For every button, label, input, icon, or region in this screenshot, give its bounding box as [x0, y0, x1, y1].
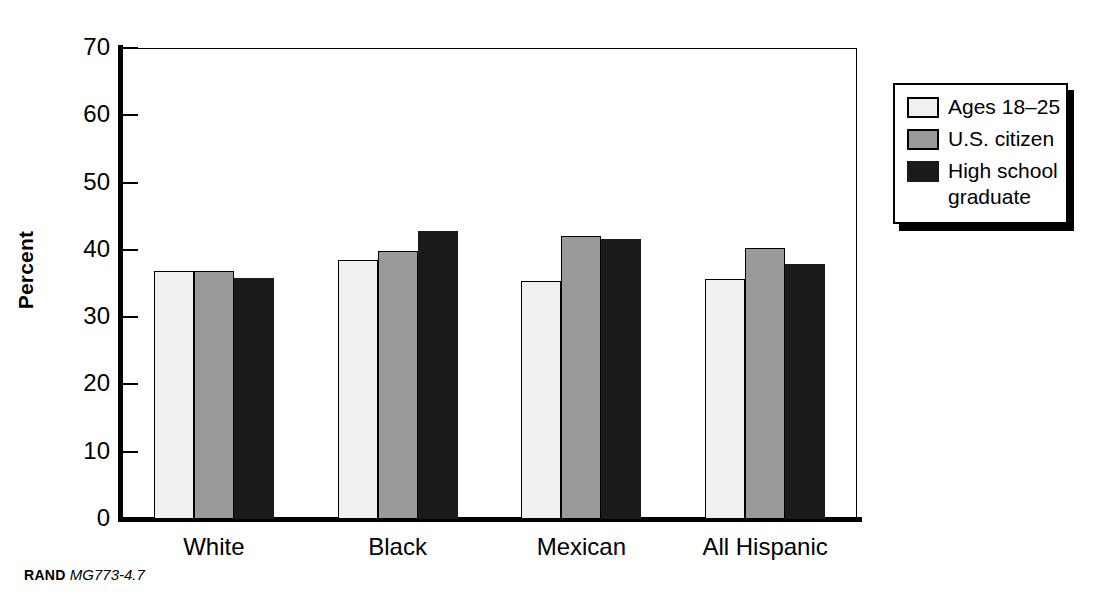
bar [338, 260, 378, 519]
bar [561, 236, 601, 519]
y-axis-tick-label: 0 [50, 506, 110, 530]
y-axis-tick-label: 20 [50, 371, 110, 395]
bar [745, 248, 785, 519]
y-axis-tick-label: 50 [50, 170, 110, 194]
legend-item-label: Ages 18–25 [948, 94, 1060, 120]
bar [378, 251, 418, 519]
legend-swatch-icon [907, 97, 939, 118]
y-axis-tick-label: 10 [50, 439, 110, 463]
legend-item-label: U.S. citizen [948, 126, 1054, 152]
legend-item: U.S. citizen [907, 126, 1066, 152]
y-axis-tick-label: 40 [50, 237, 110, 261]
legend-item-label: High school graduate [948, 158, 1058, 210]
bar [154, 271, 194, 519]
bar [521, 281, 561, 519]
bar [601, 239, 641, 519]
legend-swatch-icon [907, 161, 939, 182]
bar [234, 278, 274, 519]
y-axis-tick-label: 30 [50, 304, 110, 328]
legend-item: Ages 18–25 [907, 94, 1066, 120]
bars-layer [122, 48, 857, 519]
y-axis-title: Percent [14, 200, 38, 340]
bar [785, 264, 825, 519]
figure-container: Percent 010203040506070 WhiteBlackMexica… [0, 0, 1114, 610]
y-axis-tick-label: 70 [50, 35, 110, 59]
x-axis-label: All Hispanic [655, 533, 875, 561]
figure-footer: RAND MG773-4.7 [24, 566, 145, 584]
bar [194, 271, 234, 519]
legend-item: High school graduate [907, 158, 1066, 210]
figure-id-label: MG773-4.7 [70, 566, 145, 583]
legend: Ages 18–25U.S. citizenHigh school gradua… [893, 83, 1068, 224]
y-axis-tick-label: 60 [50, 102, 110, 126]
legend-swatch-icon [907, 129, 939, 150]
bar [418, 231, 458, 519]
bar [705, 279, 745, 519]
rand-brand-label: RAND [24, 567, 66, 583]
